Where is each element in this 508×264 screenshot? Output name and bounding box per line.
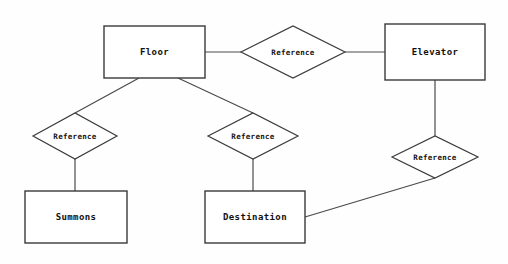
connector-floor-reference-summons: [75, 78, 139, 113]
connector-floor-reference-destination: [178, 78, 253, 113]
entity-destination-label: Destination: [223, 212, 287, 222]
entity-destination[interactable]: Destination: [205, 191, 305, 243]
relationship-elevator-destination-label: Reference: [413, 153, 457, 162]
entity-elevator[interactable]: Elevator: [385, 24, 485, 80]
entity-floor[interactable]: Floor: [104, 26, 205, 78]
relationship-floor-summons[interactable]: Reference: [33, 113, 117, 159]
relationship-elevator-destination[interactable]: Reference: [392, 136, 478, 178]
relationship-floor-elevator-label: Reference: [271, 48, 315, 57]
entity-elevator-label: Elevator: [412, 47, 459, 57]
er-diagram-svg: Floor Elevator Summons Destination Refer…: [0, 0, 508, 264]
entity-summons[interactable]: Summons: [25, 191, 127, 243]
entity-floor-label: Floor: [140, 47, 169, 57]
connector-reference-destination-diagonal: [305, 178, 435, 217]
er-diagram-canvas: Floor Elevator Summons Destination Refer…: [0, 0, 508, 264]
relationship-floor-destination-label: Reference: [231, 132, 275, 141]
relationship-floor-elevator[interactable]: Reference: [241, 26, 345, 78]
relationship-floor-summons-label: Reference: [53, 132, 97, 141]
entity-summons-label: Summons: [56, 212, 97, 222]
relationship-floor-destination[interactable]: Reference: [208, 113, 298, 159]
